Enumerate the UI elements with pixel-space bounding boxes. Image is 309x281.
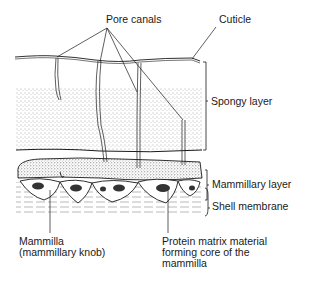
label-mammilla-line2: (mammillary knob)	[19, 247, 105, 258]
label-protein-line3: mammilla	[162, 258, 267, 269]
mammillary-layer-region	[18, 158, 202, 180]
label-spongy-layer: Spongy layer	[211, 96, 272, 107]
label-shell-membrane: Shell membrane	[212, 201, 288, 212]
brackets	[203, 62, 210, 216]
label-cuticle: Cuticle	[219, 14, 251, 25]
spongy-layer-region	[16, 60, 202, 150]
label-mammilla: Mammilla (mammillary knob)	[19, 236, 105, 258]
label-pore-canals: Pore canals	[106, 14, 161, 25]
label-protein-matrix: Protein matrix material forming core of …	[162, 236, 267, 269]
label-mammillary-layer: Mammillary layer	[212, 179, 291, 190]
